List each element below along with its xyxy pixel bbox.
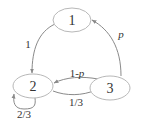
edge-label-2-to-3: 1/3 [69, 96, 84, 108]
node-label-1: 1 [69, 13, 76, 28]
node-3: 3 [90, 76, 130, 100]
node-label-3: 3 [107, 81, 114, 96]
edge-label-3-to-1: p [117, 28, 124, 40]
markov-chain-diagram: 1 p 1-p 1/3 2/3 1 2 3 [0, 0, 145, 123]
edge-label-1-to-2: 1 [25, 38, 31, 50]
edge-3-to-2: 1-p [54, 67, 98, 83]
edge-label-2-self-loop: 2/3 [17, 108, 32, 120]
edge-2-to-3: 1/3 [53, 90, 96, 108]
edge-label-3-to-2: 1-p [70, 67, 85, 79]
edge-3-to-1: p [92, 20, 124, 76]
edge-1-to-2: 1 [25, 24, 55, 73]
node-1: 1 [53, 8, 91, 32]
node-2: 2 [13, 74, 53, 98]
node-label-2: 2 [30, 79, 37, 94]
